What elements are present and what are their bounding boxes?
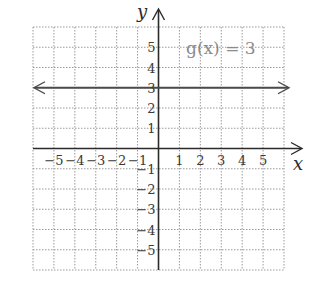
y-axis-label: y [136,1,148,22]
y-tick-label: 1 [147,121,155,136]
function-line [34,82,289,94]
x-tick-label: −3 [86,153,105,168]
y-tick-label: 4 [147,61,155,76]
x-tick-label: 2 [196,153,204,168]
y-tick-label: 5 [147,40,155,55]
axes [33,9,302,270]
y-tick-label: −1 [136,162,155,177]
y-tick-label: 2 [147,101,155,116]
x-axis-label: x [293,153,303,174]
x-tick-label: −4 [65,153,84,168]
x-tick-label: 1 [175,153,183,168]
x-tick-label: −5 [44,153,63,168]
coordinate-plane: −5−4−3−2−11234554321−1−2−3−4−5 x y g(x) … [0,0,325,288]
y-tick-label: −5 [136,243,155,258]
y-tick-label: −3 [136,202,155,217]
y-tick-label: −2 [136,182,155,197]
x-tick-label: −2 [107,153,126,168]
y-tick-label: 3 [147,81,155,96]
function-label: g(x) = 3 [186,38,256,58]
x-tick-label: 3 [217,153,225,168]
x-tick-label: 5 [259,153,267,168]
y-tick-label: −4 [136,223,155,238]
x-tick-label: 4 [238,153,246,168]
